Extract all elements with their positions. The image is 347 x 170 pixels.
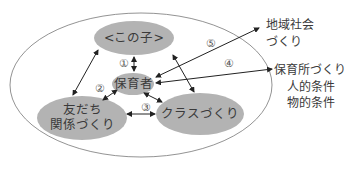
marker-4: ④ <box>224 57 234 70</box>
label-nursery-2: 人的条件 <box>287 80 335 95</box>
marker-5: ⑤ <box>206 37 216 50</box>
label-child: <この子> <box>104 30 164 46</box>
label-community-2: づくり <box>266 35 302 50</box>
arrow-caregiver-nursery <box>156 69 272 83</box>
marker-3: ③ <box>141 101 151 114</box>
marker-2: ② <box>95 82 105 95</box>
label-friends-1: 友だち <box>52 102 112 118</box>
label-nursery-3: 物的条件 <box>287 96 335 111</box>
label-nursery-1: 保育所づくり <box>274 63 346 78</box>
label-community-1: 地域社会 <box>266 18 314 33</box>
marker-1: ① <box>119 57 129 70</box>
label-friends-2: 関係づくり <box>42 117 122 133</box>
label-caregiver: 保育者 <box>113 76 153 92</box>
label-class: クラスづくり <box>160 106 240 122</box>
